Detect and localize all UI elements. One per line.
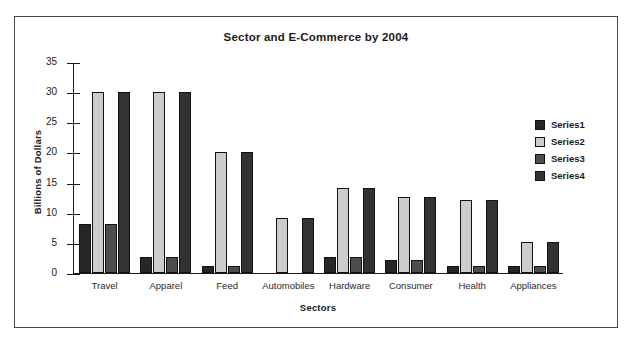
bar-series4-health[interactable] xyxy=(486,200,498,272)
legend-item[interactable]: Series2 xyxy=(535,133,585,150)
x-axis-category-label: Automobiles xyxy=(262,280,314,291)
y-axis-tick-label: 15 xyxy=(46,177,57,188)
plot-area: 05101520253035 TravelApparelFeedAutomobi… xyxy=(73,63,563,274)
bar-series1-consumer[interactable] xyxy=(385,260,397,272)
y-axis-tick: 10 xyxy=(67,214,80,215)
bar-series3-travel[interactable] xyxy=(105,224,117,272)
bar-series1-hardware[interactable] xyxy=(324,257,336,272)
bar-series3-health[interactable] xyxy=(473,266,485,272)
y-axis-tick-label: 25 xyxy=(46,116,57,127)
bar-series4-consumer[interactable] xyxy=(424,197,436,272)
y-axis-tick: 35 xyxy=(67,63,80,64)
legend-swatch-icon xyxy=(535,120,545,130)
bar-series1-travel[interactable] xyxy=(79,224,91,272)
bar-series1-feed[interactable] xyxy=(202,266,214,272)
bar-series3-apparel[interactable] xyxy=(166,257,178,272)
x-axis-category-label: Feed xyxy=(216,280,238,291)
bar-series3-consumer[interactable] xyxy=(411,260,423,272)
bar-group: Automobiles xyxy=(263,62,314,273)
y-axis-tick-label: 0 xyxy=(51,267,57,278)
bar-group: Apparel xyxy=(140,62,191,273)
bar-series2-hardware[interactable] xyxy=(337,188,349,272)
bar-series3-feed[interactable] xyxy=(228,266,240,272)
bar-series4-feed[interactable] xyxy=(241,152,253,273)
bar-series2-appliances[interactable] xyxy=(521,242,533,272)
bar-series4-travel[interactable] xyxy=(118,92,130,273)
bar-group: Health xyxy=(447,62,498,273)
y-axis-tick: 0 xyxy=(67,274,80,275)
bar-series2-travel[interactable] xyxy=(92,92,104,273)
legend-label: Series3 xyxy=(551,153,585,164)
chart-title: Sector and E-Commerce by 2004 xyxy=(15,31,617,43)
x-axis-title: Sectors xyxy=(73,302,563,313)
bar-group: Travel xyxy=(79,62,130,273)
bar-series4-apparel[interactable] xyxy=(179,92,191,273)
bar-series1-health[interactable] xyxy=(447,266,459,272)
y-axis-tick-label: 35 xyxy=(46,56,57,67)
legend-swatch-icon xyxy=(535,154,545,164)
chart-frame: Sector and E-Commerce by 2004 Billions o… xyxy=(14,16,618,328)
bar-series2-health[interactable] xyxy=(460,200,472,272)
y-axis-tick: 25 xyxy=(67,123,80,124)
bar-series4-hardware[interactable] xyxy=(363,188,375,272)
x-axis-category-label: Appliances xyxy=(510,280,556,291)
legend-label: Series4 xyxy=(551,170,585,181)
y-axis-tick-label: 30 xyxy=(46,86,57,97)
bar-series1-apparel[interactable] xyxy=(140,257,152,272)
bar-series4-automobiles[interactable] xyxy=(302,218,314,272)
bar-series2-feed[interactable] xyxy=(215,152,227,273)
bar-series1-appliances[interactable] xyxy=(508,266,520,272)
bar-series4-appliances[interactable] xyxy=(547,242,559,272)
x-axis-category-label: Apparel xyxy=(150,280,183,291)
legend-swatch-icon xyxy=(535,137,545,147)
legend-item[interactable]: Series1 xyxy=(535,116,585,133)
y-axis-tick-label: 10 xyxy=(46,207,57,218)
legend-label: Series1 xyxy=(551,119,585,130)
legend-label: Series2 xyxy=(551,136,585,147)
chart-legend: Series1Series2Series3Series4 xyxy=(535,116,585,184)
x-axis-category-label: Travel xyxy=(92,280,118,291)
bar-series3-hardware[interactable] xyxy=(350,257,362,272)
legend-item[interactable]: Series4 xyxy=(535,167,585,184)
bar-group: Hardware xyxy=(324,62,375,273)
legend-item[interactable]: Series3 xyxy=(535,150,585,167)
y-axis-tick: 5 xyxy=(67,244,80,245)
x-axis-category-label: Health xyxy=(458,280,485,291)
bar-series3-appliances[interactable] xyxy=(534,266,546,272)
y-axis-tick: 30 xyxy=(67,93,80,94)
x-axis-line xyxy=(73,273,563,275)
x-axis-category-label: Hardware xyxy=(329,280,370,291)
bar-series2-consumer[interactable] xyxy=(398,197,410,272)
bar-series2-automobiles[interactable] xyxy=(276,218,288,272)
y-axis-tick-label: 5 xyxy=(51,237,57,248)
y-axis-tick: 15 xyxy=(67,184,80,185)
legend-swatch-icon xyxy=(535,171,545,181)
y-axis-title: Billions of Dollars xyxy=(32,130,43,215)
y-axis-line xyxy=(73,63,74,274)
y-axis-tick-label: 20 xyxy=(46,146,57,157)
bar-series2-apparel[interactable] xyxy=(153,92,165,273)
x-axis-category-label: Consumer xyxy=(389,280,433,291)
bar-group: Feed xyxy=(202,62,253,273)
y-axis-tick: 20 xyxy=(67,153,80,154)
bar-group: Consumer xyxy=(385,62,436,273)
